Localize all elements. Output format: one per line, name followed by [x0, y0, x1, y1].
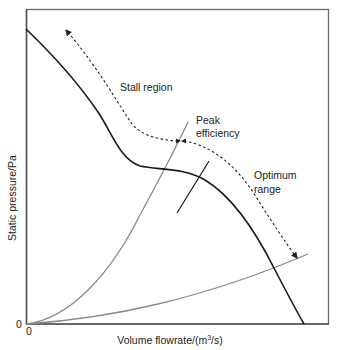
optimum-range-arrow [184, 141, 297, 258]
stall-region-label: Stall region [120, 81, 173, 94]
y-axis-label: Static pressure/Pa [6, 148, 18, 248]
x-origin-label: 0 [26, 325, 32, 338]
optimum-range-label-line1: Optimum [254, 169, 297, 182]
y-origin-label: 0 [16, 318, 22, 331]
x-axis-label: Volume flowrate/(m3/s) [100, 334, 240, 346]
x-axis-label-base: Volume flowrate/(m [117, 334, 207, 346]
plot-frame [27, 10, 329, 325]
x-axis-label-tail: /s) [211, 334, 223, 346]
optimum-range-label-line2: range [254, 183, 281, 196]
peak-efficiency-label-line1: Peak [196, 114, 220, 127]
peak-efficiency-label-line2: efficiency [196, 127, 240, 140]
peak-efficiency-marker [176, 139, 186, 144]
operating-point-tick [177, 161, 209, 213]
system-curve-steep [27, 122, 188, 324]
system-curve-shallow [27, 254, 308, 324]
